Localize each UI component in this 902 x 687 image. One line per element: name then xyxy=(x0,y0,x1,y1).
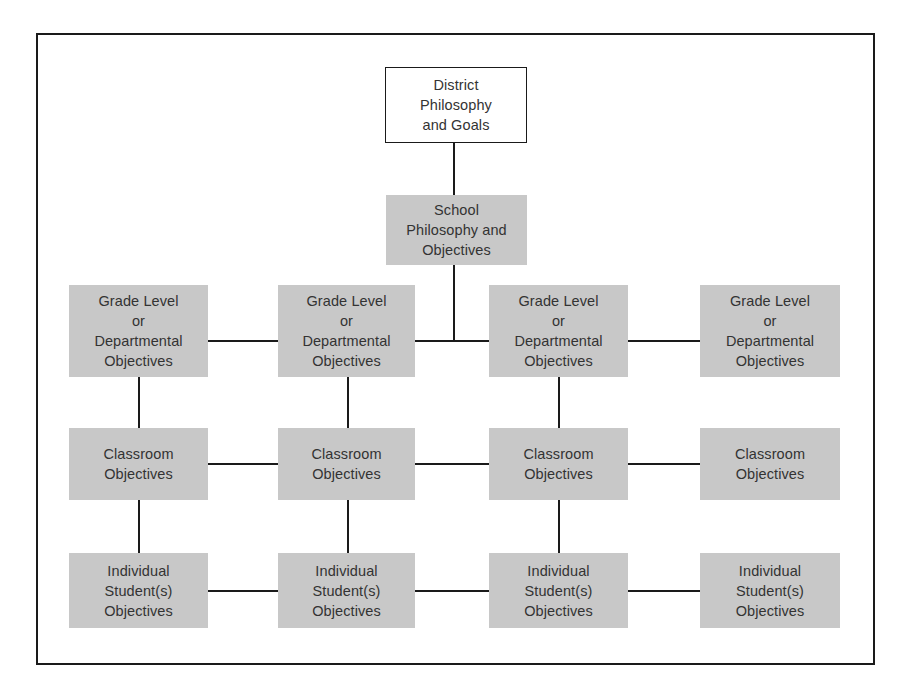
classroom-node-2: Classroom Objectives xyxy=(278,428,415,500)
node-line: Objectives xyxy=(524,464,593,484)
node-line: Objectives xyxy=(104,464,173,484)
node-line: Objectives xyxy=(312,351,381,371)
grade-level-node-4: Grade Level or Departmental Objectives xyxy=(700,285,840,377)
node-line: Student(s) xyxy=(313,581,381,601)
connector-classroom-1-2 xyxy=(208,463,278,465)
node-line: Individual xyxy=(315,561,377,581)
individual-student-node-2: Individual Student(s) Objectives xyxy=(278,553,415,628)
connector-individual-2-3 xyxy=(415,590,489,592)
node-line: Student(s) xyxy=(736,581,804,601)
connector-grade-1-2 xyxy=(208,340,278,342)
node-line: School xyxy=(434,200,479,220)
node-line: and Goals xyxy=(423,115,490,135)
connector-individual-3-4 xyxy=(628,590,700,592)
connector-col1-classroom-individual xyxy=(138,500,140,553)
node-line: Objectives xyxy=(736,601,805,621)
node-line: Classroom xyxy=(523,444,593,464)
node-line: or xyxy=(132,311,145,331)
individual-student-node-1: Individual Student(s) Objectives xyxy=(69,553,208,628)
node-line: Classroom xyxy=(103,444,173,464)
connector-classroom-3-4 xyxy=(628,463,700,465)
node-line: or xyxy=(340,311,353,331)
individual-student-node-4: Individual Student(s) Objectives xyxy=(700,553,840,628)
classroom-node-4: Classroom Objectives xyxy=(700,428,840,500)
connector-school-gradelevel xyxy=(453,265,455,342)
node-line: Objectives xyxy=(312,464,381,484)
node-line: Objectives xyxy=(524,351,593,371)
connector-classroom-2-3 xyxy=(415,463,489,465)
node-line: Individual xyxy=(107,561,169,581)
node-line: Individual xyxy=(739,561,801,581)
node-line: Student(s) xyxy=(525,581,593,601)
node-line: Grade Level xyxy=(98,291,178,311)
node-line: Classroom xyxy=(735,444,805,464)
node-line: Objectives xyxy=(422,240,491,260)
connector-col2-classroom-individual xyxy=(347,500,349,553)
connector-col1-grade-classroom xyxy=(138,377,140,428)
node-line: Philosophy xyxy=(420,95,492,115)
node-line: Objectives xyxy=(104,601,173,621)
grade-level-node-2: Grade Level or Departmental Objectives xyxy=(278,285,415,377)
connector-district-school xyxy=(453,143,455,195)
node-line: Objectives xyxy=(312,601,381,621)
node-line: Departmental xyxy=(302,331,390,351)
node-line: or xyxy=(552,311,565,331)
node-line: Departmental xyxy=(514,331,602,351)
connector-col3-classroom-individual xyxy=(558,500,560,553)
district-philosophy-node: District Philosophy and Goals xyxy=(385,67,527,143)
node-line: Objectives xyxy=(104,351,173,371)
node-line: Grade Level xyxy=(518,291,598,311)
classroom-node-1: Classroom Objectives xyxy=(69,428,208,500)
connector-grade-3-4 xyxy=(628,340,700,342)
node-line: Classroom xyxy=(311,444,381,464)
node-line: Departmental xyxy=(726,331,814,351)
node-line: Individual xyxy=(527,561,589,581)
grade-level-node-3: Grade Level or Departmental Objectives xyxy=(489,285,628,377)
school-philosophy-node: School Philosophy and Objectives xyxy=(386,195,527,265)
node-line: Grade Level xyxy=(730,291,810,311)
node-line: Student(s) xyxy=(105,581,173,601)
node-line: Objectives xyxy=(736,351,805,371)
connector-col3-grade-classroom xyxy=(558,377,560,428)
node-line: Grade Level xyxy=(306,291,386,311)
node-line: Objectives xyxy=(524,601,593,621)
connector-grade-2-3 xyxy=(415,340,489,342)
individual-student-node-3: Individual Student(s) Objectives xyxy=(489,553,628,628)
connector-individual-1-2 xyxy=(208,590,278,592)
node-line: Objectives xyxy=(736,464,805,484)
grade-level-node-1: Grade Level or Departmental Objectives xyxy=(69,285,208,377)
node-line: Philosophy and xyxy=(406,220,507,240)
node-line: Departmental xyxy=(94,331,182,351)
connector-col2-grade-classroom xyxy=(347,377,349,428)
classroom-node-3: Classroom Objectives xyxy=(489,428,628,500)
node-line: or xyxy=(763,311,776,331)
node-line: District xyxy=(433,75,478,95)
